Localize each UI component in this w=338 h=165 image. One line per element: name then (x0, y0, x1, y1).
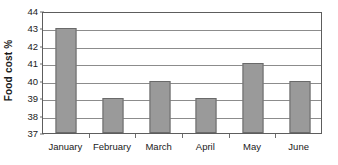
bar-slot (43, 13, 90, 133)
bar-slot (183, 13, 230, 133)
y-axis-title-text: Food cost % (4, 39, 15, 101)
plot-area (42, 12, 322, 134)
bar-slot (90, 13, 137, 133)
x-axis-tick-labels: JanuaryFebruaryMarchAprilMayJune (42, 140, 322, 158)
x-axis-tick-mark (275, 134, 276, 138)
bar[interactable] (149, 81, 170, 133)
bar-slot (276, 13, 323, 133)
bar[interactable] (242, 63, 263, 133)
x-axis-tick-mark (229, 134, 230, 138)
x-axis-tick-mark (135, 134, 136, 138)
bar-slot (136, 13, 183, 133)
y-axis-tick-label: 39 (27, 94, 38, 104)
y-axis-tick-label: 41 (27, 60, 38, 70)
x-axis-tick-mark (89, 134, 90, 138)
y-axis-tick-label: 43 (27, 25, 38, 35)
bar[interactable] (196, 98, 217, 133)
y-axis-tick-label: 37 (27, 129, 38, 139)
x-axis-tick-label: February (93, 140, 131, 154)
x-axis-tick-label: June (288, 140, 309, 154)
y-axis-tick-label: 44 (27, 7, 38, 17)
y-axis-tick-labels: 4443424140393837 (18, 12, 40, 134)
x-axis-tick-label: April (196, 140, 215, 154)
y-axis-tick-label: 42 (27, 42, 38, 52)
bar[interactable] (102, 98, 123, 133)
bar[interactable] (289, 81, 310, 133)
bar-chart: Food cost % 4443424140393837 JanuaryFebr… (0, 0, 338, 165)
x-axis-tick-marks (42, 134, 322, 139)
y-axis-tick-label: 40 (27, 77, 38, 87)
x-axis-tick-label: May (243, 140, 261, 154)
x-axis-tick-label: January (48, 140, 82, 154)
x-axis-tick-label: March (145, 140, 171, 154)
bar-slot (230, 13, 277, 133)
bar[interactable] (56, 28, 77, 133)
y-axis-tick-label: 38 (27, 112, 38, 122)
x-axis-tick-mark (182, 134, 183, 138)
y-axis-title: Food cost % (0, 0, 18, 140)
bars-group (43, 13, 321, 133)
